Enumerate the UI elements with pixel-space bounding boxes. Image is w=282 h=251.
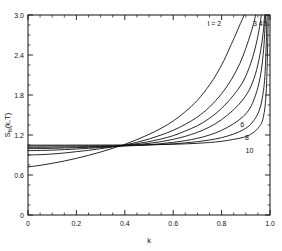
x-tick-label: 0.4 — [120, 220, 130, 227]
ylabel-args: (k,T) — [3, 112, 12, 128]
data-curves — [28, 15, 268, 167]
y-axis-major-ticks — [28, 15, 270, 215]
curve-series-10 — [28, 15, 268, 145]
y-axis-title: SN(k,T) — [3, 112, 13, 137]
axis-frame — [28, 15, 270, 215]
curve-series-4 — [28, 15, 261, 151]
x-tick-label: 0.6 — [168, 220, 178, 227]
curve-label-6: 6 — [240, 121, 244, 128]
curve-label-2: I = 2 — [207, 20, 221, 27]
y-tick-label: 1.2 — [14, 132, 24, 139]
y-axis-minor-ticks — [28, 25, 270, 205]
x-axis-title: k — [147, 236, 151, 245]
curve-label-8: 8 — [245, 134, 249, 141]
x-tick-label: 0.8 — [217, 220, 227, 227]
curve-label-10: 10 — [246, 147, 254, 154]
y-tick-label: 0 — [20, 212, 24, 219]
x-tick-label: 0.2 — [72, 220, 82, 227]
y-tick-label: 2.4 — [14, 52, 24, 59]
chart-plot: 00.20.40.60.81.0 00.61.21.82.43.0 I = 23… — [0, 0, 282, 251]
x-axis-tick-labels: 00.20.40.60.81.0 — [26, 220, 275, 227]
curve-series-3 — [28, 15, 256, 155]
x-tick-label: 1.0 — [265, 220, 275, 227]
curve-label-5: 5 — [263, 20, 267, 27]
svg-text:SN(k,T): SN(k,T) — [3, 112, 13, 137]
y-axis-tick-labels: 00.61.21.82.43.0 — [14, 12, 24, 219]
curve-series-5 — [28, 15, 265, 149]
x-tick-label: 0 — [26, 220, 30, 227]
figure-container: 00.20.40.60.81.0 00.61.21.82.43.0 I = 23… — [0, 0, 282, 251]
svg-text:k: k — [147, 236, 151, 245]
x-axis-major-ticks — [28, 15, 270, 215]
y-tick-label: 1.8 — [14, 92, 24, 99]
y-tick-label: 3.0 — [14, 12, 24, 19]
x-axis-minor-ticks — [40, 15, 258, 215]
curve-label-3: 3 — [253, 20, 257, 27]
y-tick-label: 0.6 — [14, 172, 24, 179]
